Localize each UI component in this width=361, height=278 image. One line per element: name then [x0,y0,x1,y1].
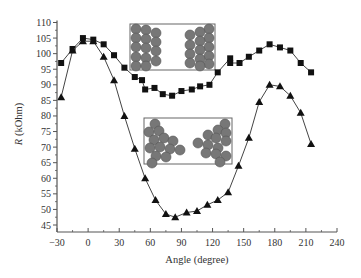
square-marker [151,85,157,91]
square-marker [206,82,212,88]
triangle-marker [234,162,242,169]
bottom-inset [144,118,232,168]
y-tick-label: 90 [41,79,51,90]
y-tick-label: 80 [41,110,51,121]
square-marker [58,60,64,66]
square-marker [169,93,175,99]
triangle-marker [224,188,232,195]
x-tick-label: 60 [145,237,155,248]
x-tick-label: 0 [86,237,91,248]
y-tick-label: 105 [36,33,51,44]
square-marker [121,65,127,71]
x-tick-label: −30 [49,237,65,248]
x-tick-label: 120 [205,237,220,248]
square-marker [111,52,117,58]
x-tick-label: 90 [176,237,186,248]
y-tick-label: 85 [41,95,51,106]
square-marker [287,48,293,54]
triangle-marker [131,145,139,152]
chart: 4550556065707580859095100105110−30030609… [0,0,361,278]
triangle-marker [100,53,108,60]
triangle-marker [297,109,305,116]
triangle-marker [152,196,160,203]
triangle-marker [203,201,211,208]
triangle-marker [266,81,274,88]
triangle-marker [245,134,253,141]
triangle-marker [57,93,65,100]
square-marker [298,60,304,66]
top-inset [130,24,215,71]
triangle-marker [307,140,315,147]
square-marker [142,86,148,92]
y-tick-label: 70 [41,142,51,153]
square-marker [101,41,107,47]
y-tick-label: 50 [41,204,51,215]
triangle-marker [120,112,128,119]
y-tick-label: 60 [41,173,51,184]
triangle-marker [214,196,222,203]
triangle-marker [193,207,201,214]
square-marker [160,91,166,97]
y-tick-label: 100 [36,48,51,59]
square-marker [139,77,145,83]
square-marker [277,44,283,50]
insets [130,24,232,168]
square-marker [237,60,243,66]
y-axis-title: R (kOhm) [13,102,25,146]
y-tick-label: 65 [41,157,51,168]
x-tick-label: 30 [114,237,124,248]
square-marker [215,69,221,75]
x-axis-title: Angle (degree) [165,254,229,266]
square-marker [308,69,314,75]
x-tick-label: 180 [267,237,282,248]
triangle-marker [255,98,263,105]
square-marker [132,74,138,80]
square-marker [246,54,252,60]
square-marker [189,86,195,92]
triangle-marker [141,174,149,181]
y-tick-label: 110 [36,17,51,28]
square-marker [178,88,184,94]
y-tick-label: 75 [41,126,51,137]
square-marker [267,41,273,47]
x-tick-label: 210 [298,237,313,248]
square-marker [256,48,262,54]
x-tick-label: 240 [330,237,345,248]
triangle-marker [110,76,118,83]
square-marker [197,83,203,89]
y-tick-label: 55 [41,188,51,199]
x-tick-label: 150 [236,237,251,248]
y-tick-label: 95 [41,64,51,75]
square-marker [227,60,233,66]
y-tick-label: 45 [41,220,51,231]
